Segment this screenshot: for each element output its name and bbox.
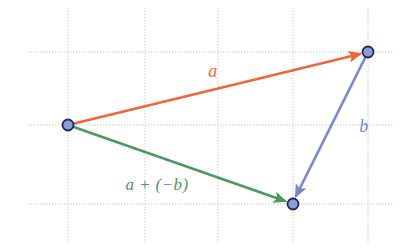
vector-diagram-figure: a b a + (−b)	[0, 0, 409, 248]
origin-node	[63, 120, 74, 131]
vector-a-label: a	[208, 61, 218, 81]
head-a-node	[363, 47, 374, 58]
vector-b-arrow	[296, 52, 368, 196]
vector-b-label: b	[359, 116, 369, 136]
grid-layer	[28, 8, 394, 243]
vector-diagram-canvas: a b a + (−b)	[0, 0, 409, 248]
vector-a-plus-neg-b-label: a + (−b)	[126, 175, 189, 194]
head-result-node	[288, 199, 299, 210]
